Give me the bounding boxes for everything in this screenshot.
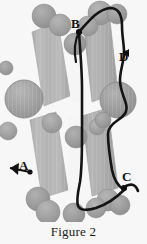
figure-container: A B C D Figure 2: [0, 0, 147, 244]
figure-label-d: D: [119, 50, 128, 63]
marker-c-dot: [121, 185, 127, 191]
figure-label-c: C: [122, 170, 131, 183]
figure-label-a: A: [19, 159, 28, 172]
figure-label-b: B: [71, 17, 80, 30]
figure-caption: Figure 2: [0, 224, 147, 240]
molecular-structure-graphic: [0, 0, 147, 222]
